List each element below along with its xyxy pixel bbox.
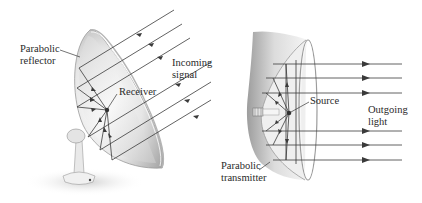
label-receiver: Receiver xyxy=(119,86,156,97)
receiver-focus xyxy=(105,108,109,112)
label-outgoing-light-1: Outgoing xyxy=(368,104,408,115)
label-incoming-signal-1: Incoming xyxy=(172,57,212,68)
transmitter-group xyxy=(247,31,317,180)
label-parabolic-reflector-2: reflector xyxy=(20,55,56,66)
label-incoming-signal-2: signal xyxy=(172,69,197,80)
label-parabolic-transmitter-1: Parabolic xyxy=(221,160,261,171)
source-focus xyxy=(287,111,292,116)
label-parabolic-transmitter-2: transmitter xyxy=(221,172,267,183)
label-source: Source xyxy=(310,95,339,106)
label-parabolic-reflector-1: Parabolic xyxy=(20,43,60,54)
label-outgoing-light-2: light xyxy=(368,116,387,127)
parabolic-diagram xyxy=(0,0,422,203)
bulb-socket xyxy=(253,108,279,116)
